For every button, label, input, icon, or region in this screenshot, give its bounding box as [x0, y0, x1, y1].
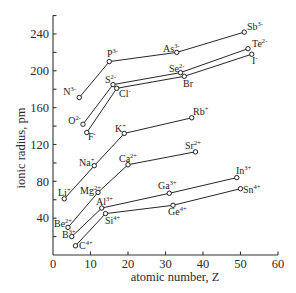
ion-symbol: Ca	[119, 153, 131, 164]
ion-label: F-	[88, 130, 96, 142]
ion-charge: 4+	[254, 183, 261, 190]
ion-label: Si4+	[105, 214, 121, 226]
ion-charge: -	[128, 87, 130, 94]
data-point	[235, 175, 239, 179]
ion-charge: 3-	[174, 42, 179, 49]
x-tick-label: 30	[159, 257, 172, 271]
x-tick-label: 60	[272, 257, 285, 271]
ion-charge: 3+	[244, 164, 251, 171]
y-tick-label: 80	[37, 175, 50, 189]
ion-symbol: O	[68, 115, 75, 126]
series-group	[77, 30, 246, 100]
data-point	[92, 163, 96, 167]
ion-charge: 4+	[180, 205, 187, 212]
data-point	[81, 122, 85, 126]
ion-charge: 3-	[71, 85, 76, 92]
ion-label: O2-	[68, 114, 81, 126]
ion-label: Al3+	[96, 195, 113, 207]
ion-charge: 4+	[113, 214, 120, 221]
data-point	[111, 82, 115, 86]
ion-charge: 3-	[113, 47, 118, 54]
ion-charge: 3+	[170, 179, 177, 186]
ion-label: Sn4+	[243, 183, 261, 195]
data-point	[246, 46, 250, 50]
data-point	[242, 30, 246, 34]
ion-charge: 3-	[258, 20, 263, 27]
ion-charge: 4+	[86, 239, 93, 246]
x-tick-label: 50	[234, 257, 247, 271]
ion-label: Sr2+	[185, 139, 201, 151]
ion-charge: +	[67, 186, 71, 193]
ion-label: C4+	[79, 239, 93, 251]
ion-charge: 2-	[262, 37, 267, 44]
ion-label: Ca2+	[119, 152, 137, 164]
ion-label: Te2-	[252, 37, 267, 49]
ion-symbol: In	[236, 165, 244, 176]
ion-symbol: Sn	[243, 184, 254, 195]
x-tick-label: 0	[50, 257, 56, 271]
ion-label: Br	[183, 78, 194, 89]
x-tick-label: 10	[84, 257, 97, 271]
y-tick-label: 160	[30, 101, 49, 115]
ion-label: Ga3+	[158, 179, 177, 191]
data-point	[107, 59, 111, 63]
ion-symbol: Si	[105, 215, 114, 226]
ion-label: P3-	[107, 47, 118, 59]
y-tick-label: 40	[37, 211, 50, 225]
data-point	[122, 131, 126, 135]
x-tick-label: 40	[197, 257, 210, 271]
y-tick-label: 240	[30, 27, 49, 41]
y-tick-label: 200	[30, 64, 49, 78]
ion-charge: 2-	[179, 62, 184, 69]
ion-charge: -	[255, 54, 257, 61]
ion-symbol: Sb	[247, 21, 258, 32]
ion-symbol: Rb	[193, 106, 205, 117]
ion-symbol: Te	[252, 38, 262, 49]
ion-charge: 3+	[106, 195, 113, 202]
ion-symbol: N	[63, 86, 70, 97]
x-tick-label: 20	[122, 257, 135, 271]
ion-charge: +	[122, 122, 126, 129]
y-tick-label: 120	[30, 138, 49, 152]
ion-symbol: Li	[58, 187, 67, 198]
ion-symbol: Cl	[119, 88, 129, 99]
ion-symbol: Ge	[168, 206, 180, 217]
ion-charge: 3+	[69, 228, 76, 235]
ion-symbol: Al	[96, 196, 106, 207]
ion-symbol: Be	[54, 218, 66, 229]
ion-label: Rb+	[193, 105, 209, 117]
data-point	[73, 244, 77, 248]
ion-label: Cl-	[119, 87, 131, 99]
ionic-radius-chart: 01020304050604080120160200240 N3-P3-As3-…	[0, 0, 296, 293]
data-point	[193, 150, 197, 154]
ion-charge: -	[94, 130, 96, 137]
ion-label: Sb3-	[247, 20, 263, 32]
ion-symbol: Br	[183, 78, 194, 89]
ion-label: Ge4+	[168, 205, 187, 217]
ion-charge: 2+	[130, 152, 137, 159]
ion-charge: 2-	[76, 114, 81, 121]
ion-symbol: As	[163, 43, 174, 54]
ion-label: Li+	[58, 186, 71, 198]
ion-symbol: Ga	[158, 180, 170, 191]
data-point	[167, 191, 171, 195]
y-axis-title: ionic radius, pm	[14, 107, 28, 188]
ion-charge: +	[205, 105, 209, 112]
data-point	[175, 50, 179, 54]
ion-charge: 2-	[111, 73, 116, 80]
ion-label: N3-	[63, 85, 76, 97]
ion-symbol: Mg	[80, 185, 94, 196]
x-axis-title: atomic number, Z	[131, 270, 220, 284]
data-point	[77, 95, 81, 99]
ion-charge: 2+	[94, 184, 101, 191]
data-point	[70, 234, 74, 238]
ion-symbol: Se	[169, 63, 180, 74]
ion-label: I-	[252, 54, 258, 66]
ion-charge: +	[91, 156, 95, 163]
ion-symbol: Na	[79, 157, 91, 168]
ion-charge: 2+	[194, 139, 201, 146]
ion-charge: 2+	[65, 217, 72, 224]
ion-label: In3+	[236, 164, 252, 176]
